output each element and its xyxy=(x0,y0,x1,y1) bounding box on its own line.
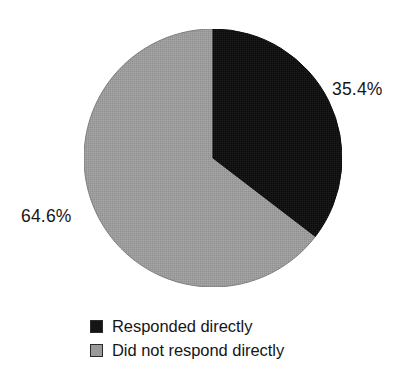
legend-item-did-not-respond-directly: Did not respond directly xyxy=(90,339,284,361)
pie-chart-graphic xyxy=(84,29,342,287)
pie-svg xyxy=(84,29,342,287)
legend-swatch-responded-directly-icon xyxy=(90,320,103,333)
pie-data-label-did-not-respond-directly: 64.6% xyxy=(21,208,72,226)
legend-label-responded-directly: Responded directly xyxy=(112,318,252,335)
pie-data-label-responded-directly: 35.4% xyxy=(332,81,383,99)
legend-item-responded-directly: Responded directly xyxy=(90,315,252,337)
pie-chart-figure: 35.4% 64.6% Responded directly Did not r… xyxy=(0,0,415,390)
legend-label-did-not-respond-directly: Did not respond directly xyxy=(112,342,284,359)
chart-legend: Responded directly Did not respond direc… xyxy=(77,308,336,369)
legend-swatch-did-not-respond-directly-icon xyxy=(90,344,103,357)
